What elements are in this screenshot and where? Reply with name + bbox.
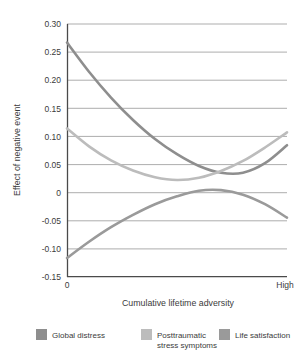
legend-swatch-global-distress: [36, 329, 47, 340]
x-axis-title: Cumulative lifetime adversity: [122, 298, 235, 308]
x-tick-label-end: High: [276, 280, 294, 290]
chart-legend: Global distress Posttraumatic stress sym…: [36, 329, 290, 350]
y-tick-label: -0.05: [42, 216, 62, 226]
legend-swatch-life-satisfaction: [219, 329, 230, 340]
y-tick-label: 0.10: [44, 132, 61, 142]
y-tick-label: 0.25: [44, 47, 61, 57]
legend-label-life-satisfaction: Life satisfaction: [235, 331, 290, 340]
y-tick-label: -0.10: [42, 244, 62, 254]
y-tick-label: -0.15: [42, 272, 62, 282]
gridlines: [67, 24, 287, 249]
legend-label-posttraumatic-line2: stress symptoms: [157, 341, 217, 350]
y-tick-labels: 0.30 0.25 0.20 0.15 0.10 0.05 0 -0.05 -0…: [42, 19, 62, 282]
curve-life-satisfaction: [67, 190, 287, 258]
y-tick-label: 0.30: [44, 19, 61, 29]
y-tick-label: 0.15: [44, 104, 61, 114]
legend-label-posttraumatic-line1: Posttraumatic: [157, 331, 206, 340]
y-tick-label: 0.20: [44, 75, 61, 85]
legend-swatch-posttraumatic: [141, 329, 152, 340]
legend-label-global-distress: Global distress: [52, 331, 105, 340]
chart-figure: 0.30 0.25 0.20 0.15 0.10 0.05 0 -0.05 -0…: [0, 0, 306, 350]
data-curves: [67, 43, 287, 259]
y-axis-title: Effect of negative event: [12, 104, 22, 196]
y-tick-label: 0: [56, 188, 61, 198]
x-tick-label-start: 0: [65, 280, 70, 290]
y-tick-label: 0.05: [44, 160, 61, 170]
